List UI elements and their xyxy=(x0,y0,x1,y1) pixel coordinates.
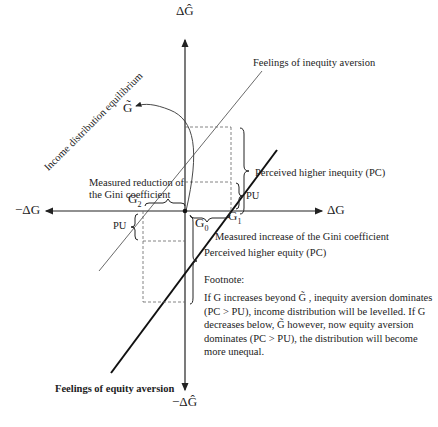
g1-label: G1 xyxy=(228,209,241,228)
pu-lower-label: PU xyxy=(113,219,126,232)
y-axis-positive-label: ΔĜ xyxy=(176,4,194,17)
y-axis-negative-label: −ΔĜ xyxy=(172,395,197,408)
g-tilde-label: G̃ xyxy=(123,101,132,114)
pu-upper-label: PU xyxy=(246,189,259,202)
x-axis-positive-label: ΔG xyxy=(327,203,345,216)
measured-increase-label: Measured increase of the Gini coefficien… xyxy=(215,230,389,243)
perceived-higher-equity-label: Perceived higher equity (PC) xyxy=(204,246,326,259)
equity-aversion-label: Feelings of equity aversion xyxy=(55,382,174,395)
g0-label: G0 xyxy=(195,216,208,235)
inequity-aversion-label: Feelings of inequity aversion xyxy=(253,56,375,69)
footnote-text: If G increases beyond G̃ , inequity aver… xyxy=(204,291,434,359)
footnote-title: Footnote: xyxy=(204,273,244,286)
perceived-higher-inequity-label: Perceived higher inequity (PC) xyxy=(255,166,385,179)
measured-reduction-label-2: the Gini coefficient xyxy=(89,188,170,201)
origin-point xyxy=(183,209,188,214)
x-axis-negative-label: −ΔG xyxy=(15,203,40,216)
